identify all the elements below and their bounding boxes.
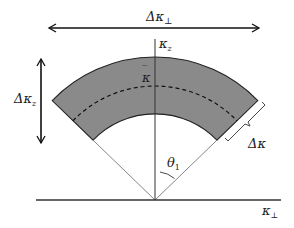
kappa-z-label: κz [158, 36, 173, 53]
delta-kappa-z-label: Δκz [13, 91, 37, 108]
theta-label: θ1 [167, 155, 180, 172]
left-radial-line [93, 140, 155, 200]
right-radial-line [155, 140, 217, 200]
theta-angle-arc [160, 172, 175, 179]
delta-kappa-label: Δκ [247, 136, 266, 151]
k-space-diagram: Δκ⊥ κz κ ‾ Δκz Δκ θ1 κ⊥ [0, 0, 294, 228]
kappa-perp-label: κ⊥ [261, 203, 278, 220]
mean-kappa-bar: ‾ [142, 63, 147, 74]
delta-kappa-perp-label: Δκ⊥ [145, 9, 172, 26]
